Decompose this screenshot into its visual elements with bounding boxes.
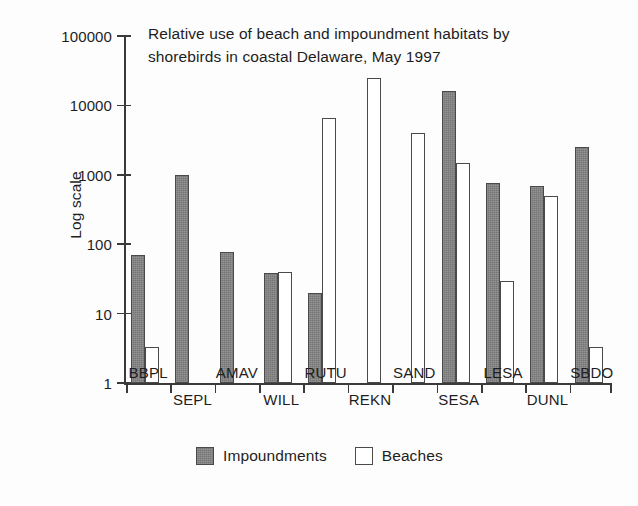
bar-sand-beaches [411, 133, 425, 383]
x-axis-line [124, 383, 612, 385]
y-axis-label: Log scale [67, 125, 85, 285]
legend-item-impoundments: Impoundments [196, 447, 327, 465]
bar-rutu-beaches [322, 118, 336, 383]
x-axis-label-rutu: RUTU [291, 365, 361, 380]
x-axis-tick-end [610, 383, 612, 393]
x-axis-label-lesa: LESA [468, 365, 538, 380]
y-axis-tick [117, 174, 131, 176]
legend-label: Impoundments [223, 447, 327, 465]
y-axis-tick [117, 313, 131, 315]
bar-sbdo-impoundments [575, 147, 589, 383]
y-axis-tick [117, 382, 131, 384]
y-axis-line [124, 36, 126, 383]
x-axis-label-dunl: DUNL [512, 392, 582, 407]
plot-area: 100000100001000100101 [124, 36, 612, 383]
chart-figure: Relative use of beach and impoundment ha… [0, 0, 638, 506]
x-axis-label-sbdo: SBDO [557, 365, 627, 380]
bar-sesa-impoundments [442, 91, 456, 383]
bar-lesa-impoundments [486, 183, 500, 383]
y-axis-tick-label: 1 [4, 376, 112, 391]
bar-sesa-beaches [456, 163, 470, 383]
legend-item-beaches: Beaches [355, 447, 443, 465]
x-axis-label-sesa: SESA [424, 392, 494, 407]
bar-dunl-beaches [544, 196, 558, 383]
legend-label: Beaches [382, 447, 443, 465]
chart-legend: ImpoundmentsBeaches [196, 447, 443, 465]
bar-sepl-impoundments [175, 175, 189, 383]
y-axis-tick-label: 100000 [4, 29, 112, 44]
y-axis-tick [117, 105, 131, 107]
y-axis-tick-label: 10 [4, 307, 112, 322]
y-axis-tick-label: 1000 [4, 168, 112, 183]
x-axis-label-sepl: SEPL [158, 392, 228, 407]
legend-swatch-icon [196, 447, 214, 465]
y-axis-tick-label: 10000 [4, 98, 112, 113]
legend-swatch-icon [355, 447, 373, 465]
bar-dunl-impoundments [530, 186, 544, 383]
x-axis-label-sand: SAND [379, 365, 449, 380]
y-axis-tick-label: 100 [4, 237, 112, 252]
x-axis-label-rekn: REKN [335, 392, 405, 407]
y-axis-tick [117, 243, 131, 245]
x-axis-tick [126, 383, 128, 393]
y-axis-tick [117, 35, 131, 37]
x-axis-label-amav: AMAV [202, 365, 272, 380]
bar-rekn-beaches [367, 78, 381, 383]
x-axis-label-bbpl: BBPL [113, 365, 183, 380]
x-axis-label-will: WILL [246, 392, 316, 407]
